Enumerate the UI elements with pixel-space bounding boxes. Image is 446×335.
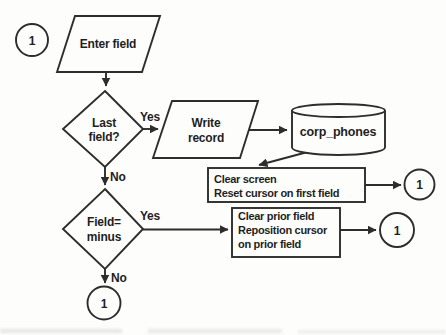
clear-prior-label-line2: Reposition cursor xyxy=(238,224,328,236)
clear-screen-connector: 1 xyxy=(405,170,435,200)
field-minus-label-line1: Field= xyxy=(87,215,121,229)
start-connector: 1 xyxy=(16,24,48,56)
flowchart-figure: 1 Enter field Last field? Yes No Write r… xyxy=(0,0,446,335)
clear-prior-connector: 1 xyxy=(380,213,414,247)
scan-artifact-strip xyxy=(0,329,446,334)
clear-screen-label-line1: Clear screen xyxy=(214,173,277,185)
last-field-decision-node: Last field? xyxy=(63,91,143,167)
field-minus-diamond xyxy=(63,189,143,269)
clear-screen-process-node: Clear screen Reset cursor on first field xyxy=(208,168,365,202)
clear-screen-label-line2: Reset cursor on first field xyxy=(214,187,339,199)
field-minus-decision-node: Field= minus xyxy=(63,189,143,269)
clear-prior-connector-label: 1 xyxy=(394,224,401,238)
clear-prior-label-line3: on prior field xyxy=(238,238,301,250)
last-field-label-line1: Last xyxy=(92,116,116,130)
clear-screen-connector-label: 1 xyxy=(416,178,423,192)
write-record-label-line1: Write xyxy=(192,116,221,130)
enter-field-label: Enter field xyxy=(80,37,136,51)
start-connector-label: 1 xyxy=(29,34,36,48)
last-field-label-line2: field? xyxy=(89,130,120,144)
end-connector-label: 1 xyxy=(101,297,108,311)
corp-phones-label: corp_phones xyxy=(300,125,377,139)
field-minus-no-label: No xyxy=(111,271,127,285)
last-field-yes-label: Yes xyxy=(140,110,161,124)
end-connector: 1 xyxy=(88,287,121,320)
field-minus-label-line2: minus xyxy=(87,230,122,244)
write-record-label-line2: record xyxy=(188,131,224,145)
field-minus-yes-label: Yes xyxy=(140,209,161,223)
corp-phones-database-node: corp_phones xyxy=(292,104,385,155)
write-record-node: Write record xyxy=(153,101,258,158)
enter-field-node: Enter field xyxy=(57,16,160,72)
clear-prior-process-node: Clear prior field Reposition cursor on p… xyxy=(232,208,340,257)
last-field-no-label: No xyxy=(110,170,126,184)
corp-phones-cylinder-top xyxy=(292,104,385,117)
clear-prior-label-line1: Clear prior field xyxy=(238,210,314,222)
flowchart-diagram: 1 Enter field Last field? Yes No Write r… xyxy=(0,0,446,335)
